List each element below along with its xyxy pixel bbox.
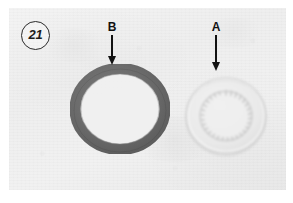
part-a-bore bbox=[204, 96, 248, 137]
callout-b-label: B bbox=[108, 20, 117, 34]
callout-a: A bbox=[200, 20, 232, 74]
photograph: 21 B A bbox=[9, 8, 286, 190]
callout-a-arrow-head bbox=[212, 62, 220, 71]
callout-b-arrow-shaft bbox=[111, 35, 113, 58]
callout-a-label: A bbox=[212, 20, 221, 34]
callout-b: B bbox=[96, 20, 128, 66]
figure-number-badge: 21 bbox=[21, 21, 50, 50]
part-b-dark-clutch-plate bbox=[70, 64, 170, 154]
figure-root: 21 B A bbox=[0, 0, 293, 203]
callout-a-arrow-shaft bbox=[215, 35, 217, 64]
part-b-bore bbox=[82, 75, 158, 143]
part-a-pale-clutch-plate bbox=[183, 74, 269, 158]
callout-b-arrow-head bbox=[108, 56, 116, 65]
